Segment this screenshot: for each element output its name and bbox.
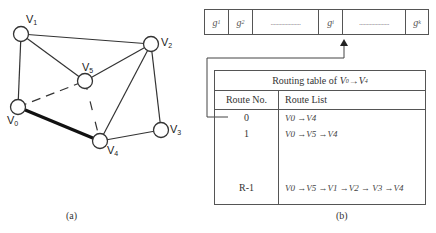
edge-v0-v1 xyxy=(18,34,21,107)
node-v2 xyxy=(144,37,159,52)
route-list-0: V0 →V4 xyxy=(285,113,316,123)
edge-v0-v5-dashed xyxy=(18,81,85,107)
node-label-v4: V4 xyxy=(107,145,118,157)
edge-v3-v4 xyxy=(100,130,161,141)
arrow-up-icon xyxy=(340,39,348,46)
gene-cell-gi: gi xyxy=(319,10,343,34)
routing-table-title: Routing table of V0 →V4 xyxy=(215,71,425,91)
node-v4 xyxy=(93,134,108,149)
route-no-0: 0 xyxy=(215,112,278,123)
edge-v1-v5 xyxy=(21,34,85,81)
caption-a: (a) xyxy=(66,210,77,221)
header-route-no: Route No. xyxy=(215,94,278,105)
header-route-list: Route List xyxy=(285,94,327,105)
edge-v1-v2 xyxy=(21,34,151,44)
node-label-v2: V2 xyxy=(161,37,172,49)
node-v1 xyxy=(14,27,29,42)
gene-cell-ellipsis: .................... xyxy=(253,10,319,34)
node-v0 xyxy=(11,100,26,115)
route-list-1: V0 →V5 →V4 xyxy=(285,129,338,139)
node-label-v3: V3 xyxy=(170,124,181,136)
gene-cell-ellipsis: .................... xyxy=(343,10,406,34)
route-list-r-1: V0 →V5 →V1 →V2 → V3 →V4 xyxy=(285,183,404,193)
node-v3 xyxy=(154,123,169,138)
caption-b: (b) xyxy=(336,210,348,221)
route-no-r-1: R-1 xyxy=(215,182,278,193)
routing-table: Routing table of V0 →V4 Route No. Route … xyxy=(214,70,426,205)
edge-v5-v4-dashed xyxy=(85,81,100,141)
node-label-v0: V0 xyxy=(7,115,18,127)
gene-bar: g1 g2 .................... gi ..........… xyxy=(204,9,429,35)
gene-cell-g2: g2 xyxy=(229,10,253,34)
edge-v2-v3 xyxy=(151,44,161,130)
routing-table-header: Route No. Route List xyxy=(215,91,425,110)
node-v5 xyxy=(78,74,93,89)
gene-cell-gk: gk xyxy=(406,10,428,34)
node-label-v1: V1 xyxy=(26,14,37,26)
edge-v0-v4-bold xyxy=(18,107,100,141)
column-divider xyxy=(278,91,279,205)
gene-cell-g1: g1 xyxy=(205,10,229,34)
route-no-1: 1 xyxy=(215,128,278,139)
node-label-v5: V5 xyxy=(82,62,93,74)
